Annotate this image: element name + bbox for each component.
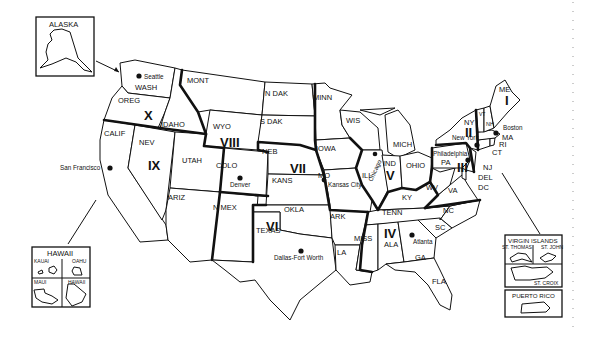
city-dot-new-york [474, 142, 479, 147]
city-dot-denver [237, 175, 242, 180]
label-oahu: OAHU [72, 258, 87, 264]
label-st-croix: ST. CROIX [534, 280, 559, 286]
hawaii-inset-title: HAWAII [47, 249, 73, 258]
city-dot-seattle [136, 73, 141, 78]
region-x: X [144, 108, 153, 123]
label-colo: COLO [216, 161, 237, 170]
label-ga: GA [415, 253, 426, 262]
virgin-islands-title: VIRGIN ISLANDS [508, 237, 558, 244]
label-la: LA [337, 248, 346, 257]
label-ariz: ARIZ [168, 193, 186, 202]
label-fla: FLA [432, 277, 446, 286]
label-dc: DC [478, 183, 489, 192]
region-v: V [386, 168, 395, 183]
city-dot-atlanta [409, 232, 414, 237]
label-va: VA [448, 186, 457, 195]
us-federal-regions-map: WASH OREG IDAHO CALIF NEV UTAH ARIZ MONT… [0, 0, 599, 337]
label-maui: MAUI [34, 279, 47, 285]
city-philadelphia: Philadelphia [433, 150, 468, 158]
label-ct: CT [492, 148, 502, 157]
label-nh: NH [486, 121, 494, 127]
label-ma: MA [502, 133, 513, 142]
city-dot-boston [493, 130, 498, 135]
puerto-rico-shape [521, 302, 550, 313]
label-mont: MONT [187, 76, 209, 85]
label-ndak: N DAK [265, 89, 288, 98]
label-nj: NJ [483, 163, 492, 172]
label-kauai: KAUAI [34, 258, 49, 264]
label-oreg: OREG [118, 96, 140, 105]
label-sc: SC [435, 223, 446, 232]
puerto-rico-title: PUERTO RICO [512, 292, 555, 299]
city-new-york: New York [452, 134, 479, 141]
city-san-francisco: San Francisco [60, 164, 101, 171]
label-sdak: S DAK [260, 117, 283, 126]
city-dot-san-francisco [107, 165, 112, 170]
label-nmex: N MEX [213, 203, 237, 212]
label-kans: KANS [272, 176, 292, 185]
label-st-thomas: ST. THOMAS [502, 244, 533, 250]
arrow-head-icon [114, 67, 119, 72]
region-i: I [505, 93, 509, 108]
vi-leader-line [502, 173, 540, 234]
region-vii: VII [290, 161, 306, 176]
label-idaho: IDAHO [161, 120, 185, 129]
city-dot-chicago [373, 152, 378, 157]
virgin-islands-inset: VIRGIN ISLANDS ST. THOMAS ST. JOHN ST. C… [502, 173, 564, 317]
label-ala: ALA [384, 240, 398, 249]
region-iii: III [457, 160, 468, 175]
region-viii: VIII [220, 135, 240, 150]
state-ndak [262, 82, 315, 116]
label-st-john: ST. JOHN [541, 244, 564, 250]
hawaii-leader-line [68, 200, 96, 244]
city-kansas-city: Kansas City [328, 181, 362, 189]
label-wash: WASH [135, 83, 157, 92]
region-ix: IX [148, 158, 161, 173]
label-ky: KY [402, 193, 412, 202]
label-wv: WV [426, 183, 438, 192]
label-ark: ARK [330, 212, 345, 221]
label-nc: NC [443, 206, 454, 215]
label-miss: MISS [354, 234, 372, 243]
label-minn: MINN [313, 93, 332, 102]
label-vt: VT [479, 111, 485, 117]
label-iowa: IOWA [316, 144, 336, 153]
hawaii-inset: HAWAII KAUAI OAHU MAUI HAWAII [32, 200, 96, 307]
oahu-shape [72, 267, 82, 275]
region-iv: IV [384, 226, 397, 241]
label-ohio: OHIO [406, 161, 425, 170]
label-ind: IND [383, 159, 397, 168]
label-neb: NEB [262, 147, 277, 156]
label-utah: UTAH [182, 156, 202, 165]
label-tenn: TENN [382, 208, 402, 217]
label-del: DEL [478, 173, 493, 182]
city-atlanta: Atlanta [413, 238, 433, 245]
city-dot-kansas-city [322, 178, 327, 183]
alaska-inset-title: ALASKA [49, 20, 78, 29]
label-okla: OKLA [284, 205, 304, 214]
region-vi: VI [266, 219, 278, 234]
city-denver: Denver [230, 181, 250, 188]
label-pa: PA [441, 158, 450, 167]
label-mich: MICH [393, 140, 412, 149]
state-ri [490, 138, 495, 146]
label-wyo: WYO [213, 122, 231, 131]
city-dallas: Dallas-Fort Worth [274, 254, 324, 261]
city-seattle: Seattle [144, 73, 164, 80]
city-boston: Boston [503, 124, 523, 131]
city-dot-philadelphia [465, 157, 470, 162]
label-calif: CALIF [104, 129, 126, 138]
city-dot-dallas [298, 248, 303, 253]
state-colo [220, 148, 268, 196]
alaska-inset: ALASKA [36, 17, 119, 76]
label-wis: WIS [346, 116, 360, 125]
label-nev: NEV [139, 138, 154, 147]
